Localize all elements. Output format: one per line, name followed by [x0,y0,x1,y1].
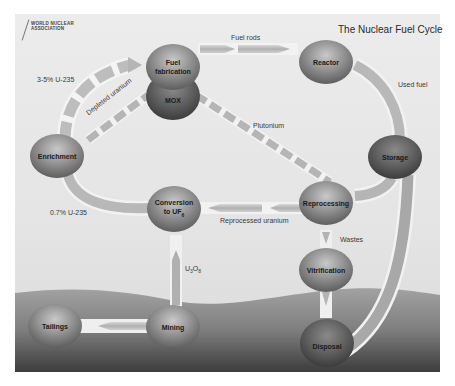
label-fuel-rods: Fuel rods [231,34,260,41]
label-enriched: 3-5% U-235 [37,76,74,83]
label-reprocessing: Reprocessing [303,199,349,208]
label-reactor: Reactor [313,58,339,67]
label-vitrification: Vitrification [307,266,345,275]
label-conversion: Conversionto UF6 [155,198,194,219]
fuel-cycle-diagram [0,0,455,386]
conversion-to-enrichment-arrow [68,175,148,208]
label-disposal: Disposal [312,342,341,351]
label-wastes: Wastes [340,236,363,243]
label-enrichment: Enrichment [38,152,77,161]
page-title: The Nuclear Fuel Cycle [338,24,442,35]
label-mining: Mining [162,323,185,332]
label-used-fuel: Used fuel [398,81,428,88]
logo: WORLD NUCLEAR ASSOCIATION [31,21,74,31]
u3o8-arrow [172,250,180,305]
label-u3o8: U3O8 [185,265,201,274]
label-reprocessed-uranium: Reprocessed uranium [220,217,288,224]
label-storage: Storage [382,153,408,162]
label-tailings: Tailings [42,322,68,331]
label-mox: MOX [165,96,181,105]
label-fuel-fabrication: Fuel fabrication [149,58,197,76]
label-natural-uranium: 0.7% U-235 [50,209,87,216]
label-plutonium: Plutonium [253,122,284,129]
